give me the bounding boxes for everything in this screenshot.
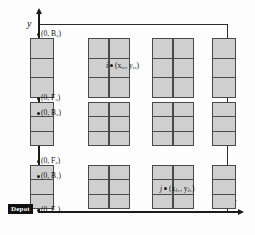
item-annotation-j: j (xⱼ₁, yⱼ₁)	[160, 184, 195, 193]
storage-cell	[153, 132, 172, 145]
storage-cell	[174, 132, 193, 145]
block-r1-c4	[212, 165, 236, 209]
block-r2-c3	[152, 102, 194, 146]
item-annotation-i-id: i	[106, 61, 108, 70]
storage-cell	[213, 117, 235, 130]
storage-cell	[31, 59, 53, 78]
warehouse-layout-figure: y x (0, B₃) (0, F₃) (0, B₂) (0, F₂) (0, …	[0, 0, 255, 235]
storage-cell	[89, 195, 108, 208]
storage-cell	[153, 59, 172, 78]
storage-cell	[153, 103, 172, 116]
storage-cell	[174, 117, 193, 130]
storage-cell	[89, 166, 108, 179]
storage-cell	[31, 117, 53, 130]
tick-label-b1: (0, B₁)	[41, 171, 61, 180]
storage-cell	[174, 166, 193, 179]
x-axis-line	[38, 211, 238, 213]
storage-cell	[31, 180, 53, 193]
tick-dot-b3	[37, 33, 40, 36]
storage-cell	[153, 78, 172, 97]
storage-cell	[153, 117, 172, 130]
item-annotation-j-id: j	[160, 184, 162, 193]
item-annotation-i: i (xᵢ₃, yᵢ₃)	[106, 61, 139, 70]
block-r1-c2	[88, 165, 130, 209]
storage-cell	[89, 103, 108, 116]
storage-cell	[213, 59, 235, 78]
storage-cell	[153, 166, 172, 179]
tick-label-b2: (0, B₂)	[41, 108, 61, 117]
storage-cell	[174, 78, 193, 97]
storage-cell	[213, 180, 235, 193]
storage-cell	[153, 195, 172, 208]
storage-cell	[31, 132, 53, 145]
storage-cell	[110, 103, 129, 116]
block-r3-c1	[30, 38, 54, 98]
tick-dot-b2	[37, 112, 40, 115]
block-r3-c3	[152, 38, 194, 98]
item-point-i-dot-icon	[110, 64, 113, 67]
storage-cell	[110, 195, 129, 208]
storage-cell	[213, 39, 235, 58]
item-annotation-j-coords: (xⱼ₁, yⱼ₁)	[169, 184, 194, 193]
storage-cell	[174, 59, 193, 78]
storage-cell	[213, 166, 235, 179]
storage-cell	[110, 132, 129, 145]
tick-dot-f2	[37, 160, 40, 163]
tick-dot-f3	[37, 97, 40, 100]
storage-cell	[89, 39, 108, 58]
depot-label: Depot	[8, 204, 33, 214]
warehouse-boundary	[38, 24, 228, 212]
storage-cell	[110, 166, 129, 179]
x-axis-arrow-icon	[238, 209, 244, 215]
y-axis-arrow-icon	[36, 8, 42, 14]
storage-cell	[110, 180, 129, 193]
tick-label-f1: (0, F₁)	[41, 205, 60, 214]
storage-cell	[89, 78, 108, 97]
storage-cell	[89, 117, 108, 130]
block-r2-c4	[212, 102, 236, 146]
block-r3-c4	[212, 38, 236, 98]
item-point-j-dot-icon	[164, 187, 167, 190]
storage-cell	[110, 117, 129, 130]
storage-cell	[110, 78, 129, 97]
storage-cell	[89, 180, 108, 193]
storage-cell	[153, 39, 172, 58]
storage-cell	[213, 78, 235, 97]
storage-cell	[213, 195, 235, 208]
tick-label-f2: (0, F₂)	[41, 156, 60, 165]
storage-cell	[213, 132, 235, 145]
block-r2-c2	[88, 102, 130, 146]
storage-cell	[213, 103, 235, 116]
item-annotation-i-coords: (xᵢ₃, yᵢ₃)	[115, 61, 139, 70]
storage-cell	[174, 195, 193, 208]
tick-label-b3: (0, B₃)	[41, 29, 61, 38]
storage-cell	[89, 132, 108, 145]
storage-cell	[110, 39, 129, 58]
y-axis-label: y	[27, 18, 31, 29]
storage-cell	[174, 103, 193, 116]
storage-cell	[174, 39, 193, 58]
tick-dot-f1	[37, 209, 40, 212]
tick-label-f3: (0, F₃)	[41, 93, 60, 102]
tick-dot-b1	[37, 175, 40, 178]
storage-cell	[31, 39, 53, 58]
